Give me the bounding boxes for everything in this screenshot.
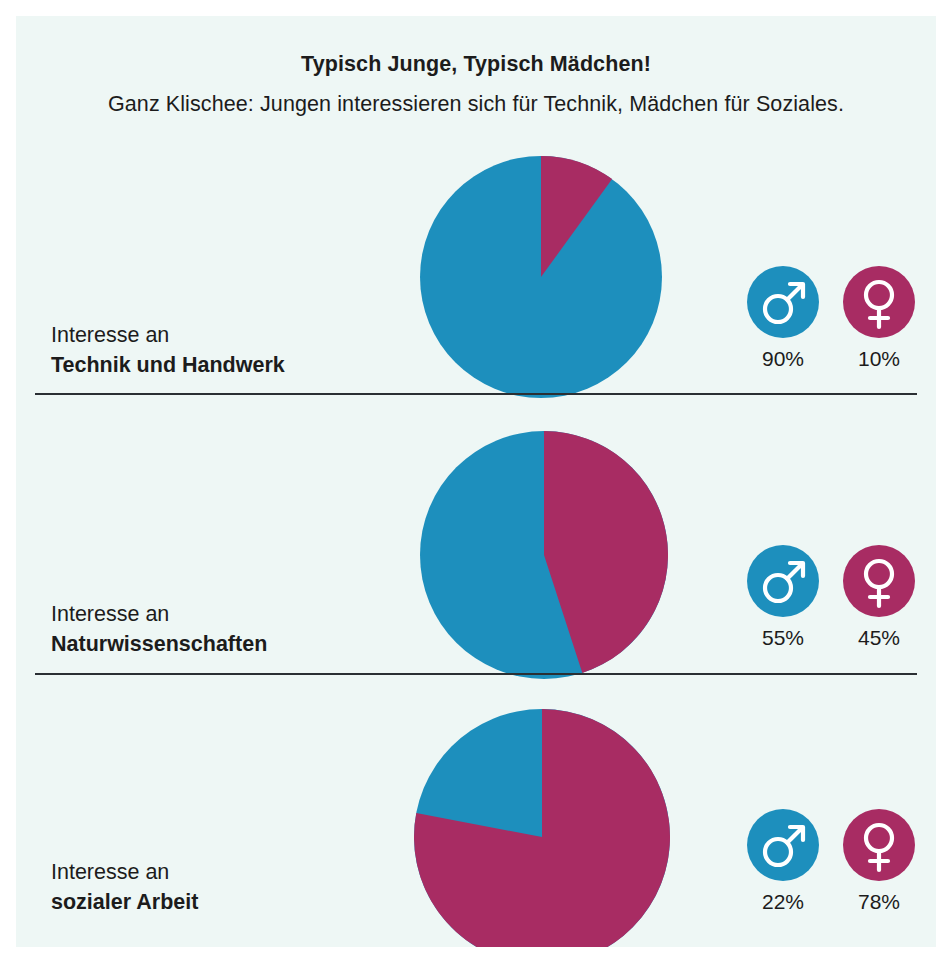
legend-male-technik: 90% — [744, 266, 822, 371]
male-percentage: 22% — [744, 890, 822, 914]
female-percentage: 78% — [840, 890, 918, 914]
row-divider — [35, 393, 917, 395]
pie-chart-technik — [420, 156, 662, 398]
page-subtitle: Ganz Klischee: Jungen interessieren sich… — [16, 77, 936, 117]
mars-symbol-icon — [747, 545, 819, 617]
chart-row-soziale-arbeit: Interesse an sozialer Arbeit 22% — [16, 689, 936, 947]
row-label-soziale-arbeit: Interesse an sozialer Arbeit — [51, 857, 391, 917]
row-label-prefix: Interesse an — [51, 599, 391, 629]
venus-symbol-icon — [843, 266, 915, 338]
male-percentage: 90% — [744, 347, 822, 371]
venus-symbol-badge — [843, 266, 915, 338]
row-label-prefix: Interesse an — [51, 857, 391, 887]
pie-chart-naturwissenschaften — [420, 431, 668, 679]
legend-female-technik: 10% — [840, 266, 918, 371]
page-title: Typisch Junge, Typisch Mädchen! — [16, 16, 936, 77]
venus-symbol-badge — [843, 809, 915, 881]
venus-symbol-badge — [843, 545, 915, 617]
poster-header: Typisch Junge, Typisch Mädchen! Ganz Kli… — [16, 16, 936, 117]
legend-female-naturwissenschaften: 45% — [840, 545, 918, 650]
chart-row-technik: Interesse an Technik und Handwerk 90% — [16, 130, 936, 393]
legend-badges-technik: 90% 10% — [738, 266, 928, 386]
pie-svg — [420, 431, 668, 679]
legend-badges-naturwissenschaften: 55% 45% — [738, 545, 928, 665]
infographic-poster: Typisch Junge, Typisch Mädchen! Ganz Kli… — [16, 16, 936, 947]
mars-symbol-badge — [747, 266, 819, 338]
legend-female-soziale-arbeit: 78% — [840, 809, 918, 914]
pie-svg — [420, 156, 662, 398]
legend-male-soziale-arbeit: 22% — [744, 809, 822, 914]
row-label-naturwissenschaften: Interesse an Naturwissenschaften — [51, 599, 391, 659]
legend-male-naturwissenschaften: 55% — [744, 545, 822, 650]
row-label-prefix: Interesse an — [51, 320, 391, 350]
row-divider — [35, 673, 917, 675]
female-percentage: 10% — [840, 347, 918, 371]
venus-symbol-icon — [843, 545, 915, 617]
venus-symbol-icon — [843, 809, 915, 881]
row-label-topic: Technik und Handwerk — [51, 350, 391, 380]
mars-symbol-icon — [747, 266, 819, 338]
row-label-technik: Interesse an Technik und Handwerk — [51, 320, 391, 380]
row-label-topic: Naturwissenschaften — [51, 629, 391, 659]
chart-row-naturwissenschaften: Interesse an Naturwissenschaften 55% — [16, 409, 936, 672]
female-percentage: 45% — [840, 626, 918, 650]
row-label-topic: sozialer Arbeit — [51, 887, 391, 917]
mars-symbol-badge — [747, 809, 819, 881]
mars-symbol-icon — [747, 809, 819, 881]
pie-svg — [414, 709, 670, 947]
mars-symbol-badge — [747, 545, 819, 617]
pie-chart-soziale-arbeit — [414, 709, 670, 947]
legend-badges-soziale-arbeit: 22% 78% — [738, 809, 928, 929]
male-percentage: 55% — [744, 626, 822, 650]
